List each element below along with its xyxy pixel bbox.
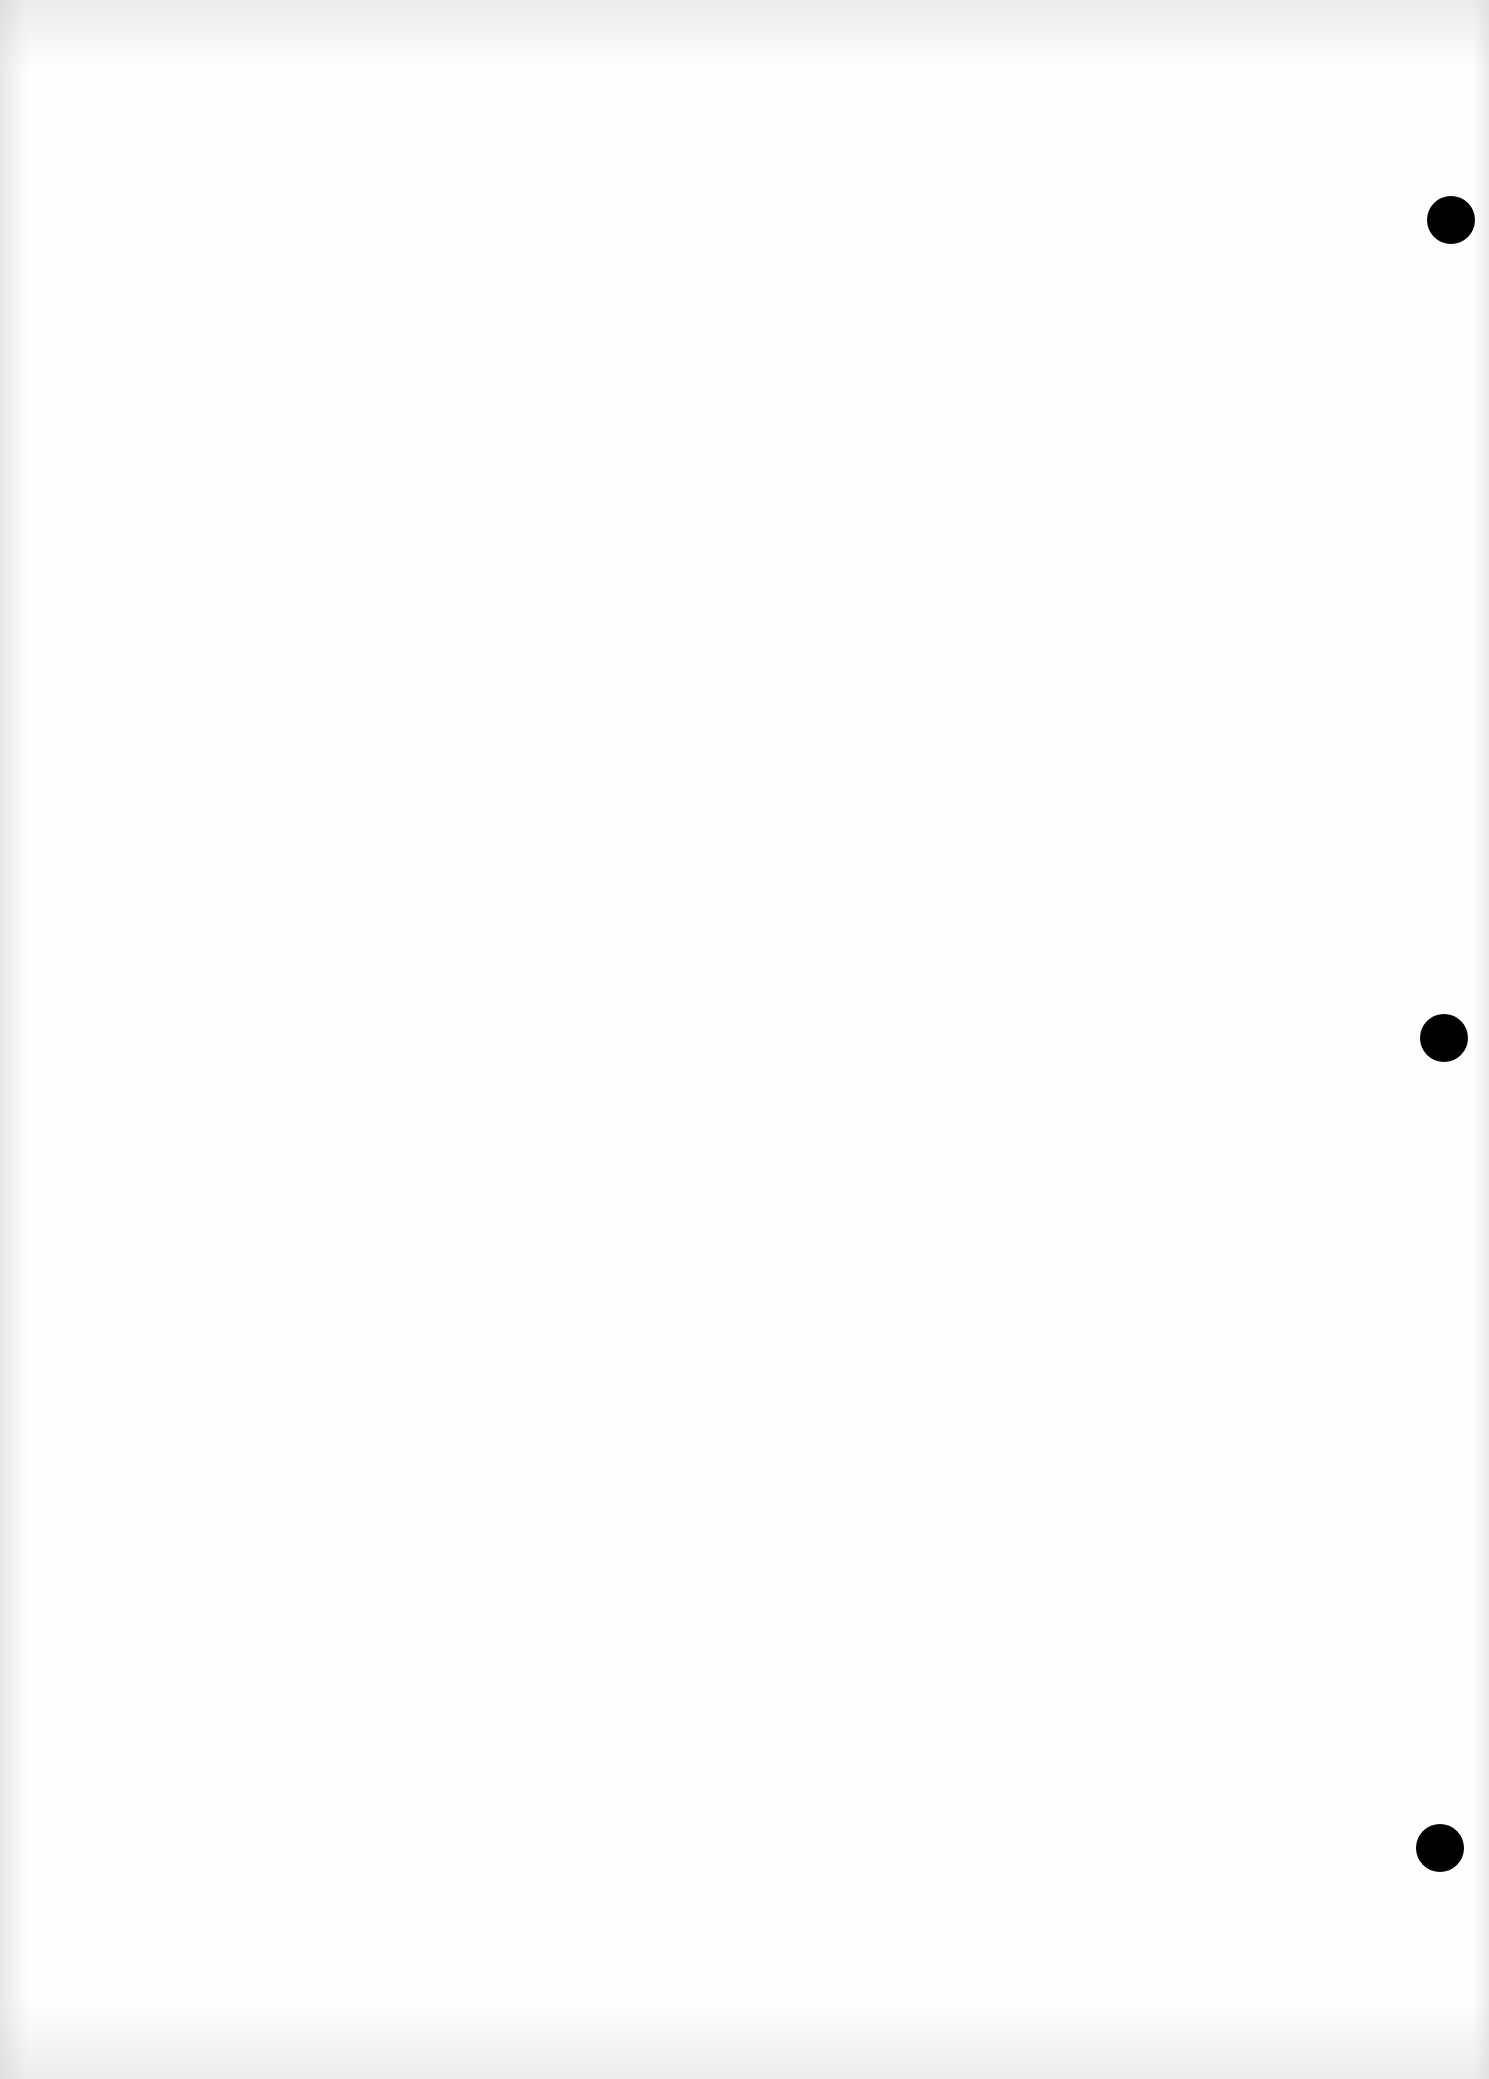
scan-edge-shadow-right bbox=[1473, 0, 1489, 2079]
punch-hole-bottom bbox=[1416, 1824, 1464, 1872]
scan-edge-shadow-left bbox=[0, 0, 28, 2079]
scan-edge-shadow-top bbox=[0, 0, 1489, 70]
scan-edge-shadow-bottom bbox=[0, 1999, 1489, 2079]
punch-hole-middle bbox=[1420, 1014, 1468, 1062]
punch-hole-top bbox=[1427, 196, 1475, 244]
scanned-blank-page bbox=[0, 0, 1489, 2079]
